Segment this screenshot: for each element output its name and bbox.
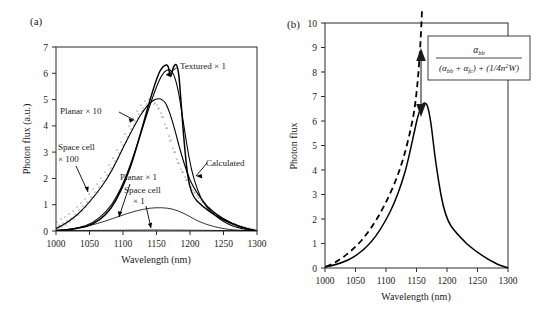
- annotation-textured-x1: Textured × 1: [180, 61, 226, 71]
- panel-b-ytick-10: 10: [308, 19, 318, 29]
- panel-b-y-axis: 0 1 2 3 4 5 6 7 8 9 10: [308, 19, 326, 274]
- annotation-space-cell-100-mult: × 100: [58, 154, 79, 164]
- panel-b-xtick-1150: 1150: [407, 276, 426, 286]
- annotation-space-cell-100: Space cell: [58, 142, 95, 152]
- formula-box: αbb (αbb + αfc) + (1/4n2W): [428, 36, 530, 80]
- panel-a-xtick-1150: 1150: [147, 239, 166, 249]
- panel-b-ytick-9: 9: [312, 43, 317, 53]
- panel-b-x-axis: 1000 1050 1100 1150 1200 1250 1300: [316, 268, 518, 286]
- panel-a-plot-frame: [56, 47, 257, 231]
- annotation-space-cell-1-mult: × 1: [133, 196, 145, 206]
- panel-a-ytick-7: 7: [43, 43, 48, 53]
- panel-a-xtick-1000: 1000: [47, 239, 66, 249]
- arrowhead-space-cell-100: [85, 186, 89, 192]
- panel-a-ytick-6: 6: [43, 69, 48, 79]
- series-photon-flux-spectrum: [325, 103, 508, 268]
- panel-b-xtick-1100: 1100: [377, 276, 396, 286]
- series-planar-x1: [56, 208, 257, 231]
- panel-b-ytick-1: 1: [312, 239, 317, 249]
- leader-planar-x10: [119, 112, 134, 120]
- annotation-calculated: Calculated: [206, 158, 245, 168]
- panel-b-y-axis-title: Photon flux: [288, 123, 299, 170]
- panel-a-ytick-3: 3: [43, 148, 48, 158]
- panel-a-annotations: Textured × 1 Planar × 10 Space cell × 10…: [58, 61, 245, 228]
- panel-b-xtick-1000: 1000: [316, 276, 335, 286]
- panel-a-ytick-2: 2: [43, 174, 48, 184]
- panel-a-tag: (a): [30, 15, 43, 28]
- panel-a: (a) 0 1 2 3 4 5 6 7: [0, 0, 275, 316]
- panel-a-x-axis: 1000 1050 1100 1150 1200 1250 1300: [47, 231, 267, 249]
- arrowhead-space-cell-1: [148, 223, 152, 229]
- annotation-planar-x1: Planar × 1: [120, 172, 157, 182]
- panel-b-svg: (b) 0 1 2 3 4 5: [275, 0, 550, 316]
- panel-b-ytick-7: 7: [312, 92, 317, 102]
- panel-b-ytick-8: 8: [312, 68, 317, 78]
- panel-b-ytick-0: 0: [312, 264, 317, 274]
- annotation-space-cell-1: Space cell: [124, 185, 161, 195]
- panel-b-xtick-1250: 1250: [468, 276, 487, 286]
- panel-b: (b) 0 1 2 3 4 5: [275, 0, 550, 316]
- panel-a-ytick-4: 4: [43, 121, 48, 131]
- panel-a-xtick-1200: 1200: [181, 239, 200, 249]
- annotation-planar-x10: Planar × 10: [60, 106, 102, 116]
- panel-a-xtick-1050: 1050: [80, 239, 99, 249]
- arrowhead-up: [416, 48, 426, 61]
- panel-a-ytick-0: 0: [43, 227, 48, 237]
- panel-a-ytick-5: 5: [43, 95, 48, 105]
- panel-b-tag: (b): [287, 18, 300, 31]
- panel-b-ytick-2: 2: [312, 215, 317, 225]
- panel-a-xtick-1300: 1300: [248, 239, 267, 249]
- panel-a-x-axis-title: Wavelength (nm): [121, 254, 190, 266]
- panel-a-ytick-1: 1: [43, 200, 48, 210]
- panel-a-y-axis-title: Photon flux (a.u.): [21, 104, 33, 175]
- figure-container: (a) 0 1 2 3 4 5 6 7: [0, 0, 550, 316]
- panel-b-xtick-1200: 1200: [438, 276, 457, 286]
- panel-b-xtick-1050: 1050: [346, 276, 365, 286]
- panel-b-x-axis-title: Wavelength (nm): [381, 291, 450, 303]
- panel-b-ytick-4: 4: [312, 166, 317, 176]
- panel-b-ytick-6: 6: [312, 117, 317, 127]
- panel-b-xtick-1300: 1300: [499, 276, 518, 286]
- series-radiative-limit-dashed: [326, 10, 422, 267]
- panel-a-y-axis: 0 1 2 3 4 5 6 7: [43, 43, 56, 237]
- panel-b-ytick-5: 5: [312, 141, 317, 151]
- panel-b-ytick-3: 3: [312, 190, 317, 200]
- panel-a-svg: (a) 0 1 2 3 4 5 6 7: [0, 0, 275, 316]
- panel-a-xtick-1250: 1250: [214, 239, 233, 249]
- panel-a-xtick-1100: 1100: [114, 239, 133, 249]
